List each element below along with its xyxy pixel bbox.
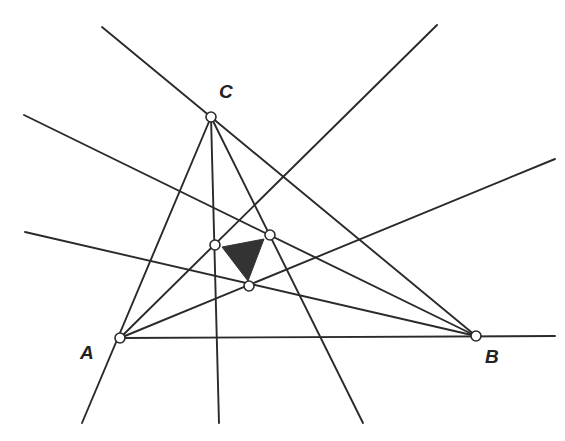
inner-point-p3 [244,281,254,291]
points [115,112,481,343]
vertex-c-point [206,112,216,122]
vertex-c-label: C [219,81,233,102]
vertex-b-point [471,331,481,341]
shaded-inner-triangle [222,239,264,281]
vertex-a-point [115,333,125,343]
line-a-p3 [120,159,555,338]
vertex-labels: ABC [79,81,499,367]
vertex-b-label: B [485,346,499,367]
inner-point-p2 [265,230,275,240]
line-ab [120,336,555,338]
line-c-p1 [211,117,219,423]
inner-point-p1 [210,240,220,250]
geometry-diagram: ABC [0,0,565,441]
vertex-a-label: A [79,342,94,363]
construction-lines [24,25,555,423]
line-c-extension [102,27,211,117]
